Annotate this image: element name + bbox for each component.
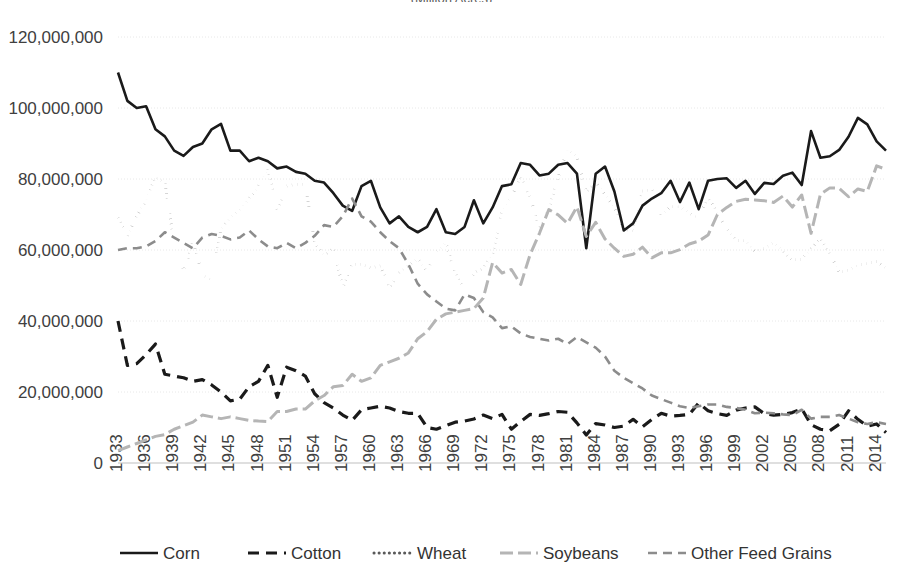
x-axis-tick-label: 2005	[781, 434, 800, 472]
x-axis-tick-label: 2014	[866, 434, 885, 472]
x-axis-tick-label: 2002	[753, 434, 772, 472]
x-axis-tick-label: 1969	[444, 434, 463, 472]
x-axis-tick-label: 1960	[360, 434, 379, 472]
x-axis-tick-labels: 1933193619391942194519481951195419571960…	[107, 434, 885, 472]
y-axis-tick-label: 80,000,000	[18, 170, 103, 189]
y-axis-tick-label: 40,000,000	[18, 312, 103, 331]
x-axis-tick-label: 1957	[332, 434, 351, 472]
x-axis-tick-label: 1945	[219, 434, 238, 472]
legend-label-corn: Corn	[163, 544, 200, 563]
x-axis-tick-label: 1993	[669, 434, 688, 472]
x-axis-tick-label: 1951	[276, 434, 295, 472]
x-axis-tick-label: 1978	[529, 434, 548, 472]
y-axis-tick-label: 120,000,000	[8, 28, 103, 47]
y-axis-tick-label: 0	[94, 454, 103, 473]
x-axis-tick-label: 1939	[163, 434, 182, 472]
x-axis-tick-label: 1975	[500, 434, 519, 472]
series-line-soybeans	[118, 166, 886, 451]
x-axis-tick-label: 1990	[641, 434, 660, 472]
series-line-cotton	[118, 321, 886, 435]
x-axis-tick-label: 1987	[613, 434, 632, 472]
x-axis-tick-label: 1933	[107, 434, 126, 472]
x-axis-tick-label: 1972	[472, 434, 491, 472]
y-axis-tick-label: 60,000,000	[18, 241, 103, 260]
series-line-wheat	[118, 150, 886, 291]
x-axis-tick-label: 1999	[725, 434, 744, 472]
x-axis-tick-label: 2008	[809, 434, 828, 472]
x-axis-tick-label: 1963	[388, 434, 407, 472]
y-axis-tick-label: 100,000,000	[8, 99, 103, 118]
crop-acreage-chart: (Million Acres) 120,000,000100,000,00080…	[0, 0, 903, 585]
x-axis-tick-label: 1954	[304, 434, 323, 472]
x-axis-tick-label: 1996	[697, 434, 716, 472]
series-line-corn	[118, 73, 886, 249]
x-axis-tick-label: 1966	[416, 434, 435, 472]
x-axis-tick-label: 1981	[557, 434, 576, 472]
data-series-group	[118, 73, 886, 451]
x-axis-tick-label: 2011	[838, 435, 857, 472]
chart-plot-area: 120,000,000100,000,00080,000,00060,000,0…	[0, 0, 903, 585]
legend-label-soybeans: Soybeans	[543, 544, 619, 563]
y-axis-tick-labels: 120,000,000100,000,00080,000,00060,000,0…	[8, 28, 103, 473]
x-axis-tick-label: 1948	[248, 434, 267, 472]
x-axis-tick-label: 1984	[585, 434, 604, 472]
legend-label-cotton: Cotton	[291, 544, 341, 563]
chart-legend: CornCottonWheatSoybeansOther Feed Grains	[120, 544, 832, 563]
chart-title: (Million Acres)	[0, 0, 903, 2]
x-axis-tick-label: 1942	[191, 434, 210, 472]
legend-label-other_feed_grains: Other Feed Grains	[691, 544, 832, 563]
legend-label-wheat: Wheat	[417, 544, 466, 563]
series-line-other_feed_grains	[118, 199, 886, 424]
y-axis-tick-label: 20,000,000	[18, 383, 103, 402]
